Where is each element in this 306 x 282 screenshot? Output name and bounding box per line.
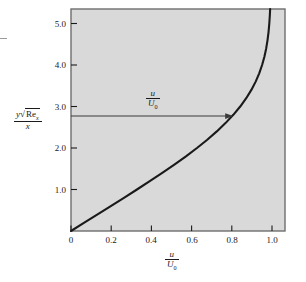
y-axis-label: y√Rex x: [14, 110, 42, 132]
velocity-ratio-annotation-label: u U0: [146, 89, 160, 111]
plot-area-background: [71, 9, 285, 231]
y-tick-label-3: 3.0: [46, 103, 66, 112]
x-tick-label-1: 0.2: [105, 236, 116, 245]
x-tick-label-3: 0.6: [186, 236, 197, 245]
y-tick-label-5: 5.0: [46, 20, 66, 29]
annotation-denominator: U0: [146, 99, 160, 110]
y-axis-label-radicand: Rex: [25, 108, 40, 119]
x-tick-label-4: 0.8: [226, 236, 237, 245]
y-axis-label-radicand-sub: x: [36, 115, 39, 121]
x-tick-label-5: 1.0: [266, 236, 277, 245]
x-axis-label: u U0: [165, 250, 179, 272]
x-axis-label-denominator: U0: [165, 260, 179, 271]
x-tick-label-0: 0: [69, 236, 74, 245]
x-tick-label-2: 0.4: [145, 236, 156, 245]
y-axis-label-denominator: x: [14, 122, 42, 131]
y-tick-label-1: 1.0: [46, 186, 66, 195]
figure-container: 0 0.2 0.4 0.6 0.8 1.0 1.0 2.0 3.0 4.0 5.…: [0, 0, 306, 282]
y-tick-label-4: 4.0: [46, 61, 66, 70]
y-tick-label-2: 2.0: [46, 144, 66, 153]
annotation-denominator-sub: 0: [155, 104, 158, 110]
x-axis-label-denominator-sub: 0: [174, 265, 177, 271]
